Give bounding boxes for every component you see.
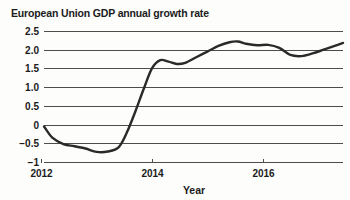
- x-axis: [42, 159, 344, 163]
- y-axis-tick-label: 1.5: [25, 63, 39, 74]
- y-axis-tick-label: −1: [28, 157, 40, 168]
- y-axis-tick-label: −0.5: [19, 138, 39, 149]
- line-chart-plot: 2.52.01.51.00.50−0.5−1 201220142016 Year: [0, 0, 350, 200]
- x-axis-tick-labels: 201220142016: [30, 168, 275, 179]
- y-axis-tick-label: 0: [33, 120, 39, 131]
- x-axis-tick-label: 2014: [141, 168, 164, 179]
- data-series-line: [44, 41, 343, 152]
- chart-screenshot: European Union GDP annual growth rate 2.…: [0, 0, 350, 200]
- data-series-group: [44, 41, 343, 152]
- y-axis-tick-label: 0.5: [25, 101, 39, 112]
- y-axis-tick-label: 2.5: [25, 26, 39, 37]
- gridlines: [44, 32, 343, 144]
- x-axis-title: Year: [183, 184, 205, 196]
- y-axis-tick-labels: 2.52.01.51.00.50−0.5−1: [19, 26, 39, 168]
- x-axis-tick-label: 2012: [30, 168, 53, 179]
- x-axis-tick-label: 2016: [252, 168, 275, 179]
- y-axis-tick-label: 2.0: [25, 45, 39, 56]
- y-axis-tick-label: 1.0: [25, 82, 39, 93]
